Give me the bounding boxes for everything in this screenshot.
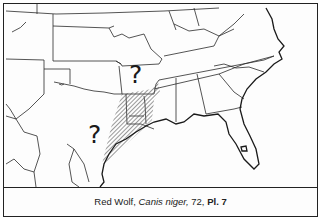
range-map: ? ? xyxy=(4,4,317,188)
uncertain-range-marker-north: ? xyxy=(129,62,142,87)
uncertain-range-marker-west: ? xyxy=(88,122,101,147)
map-figure: ? ? Red Wolf, Canis niger, 72, Pl. 7 xyxy=(3,3,318,217)
map-caption: Red Wolf, Canis niger, 72, Pl. 7 xyxy=(4,187,317,216)
caption-plate: Pl. 7 xyxy=(207,196,227,207)
caption-page: 72, xyxy=(191,196,204,207)
state-outlines xyxy=(4,4,317,187)
caption-scientific-name: Canis niger, xyxy=(138,196,188,207)
caption-common-name: Red Wolf, xyxy=(94,196,136,207)
